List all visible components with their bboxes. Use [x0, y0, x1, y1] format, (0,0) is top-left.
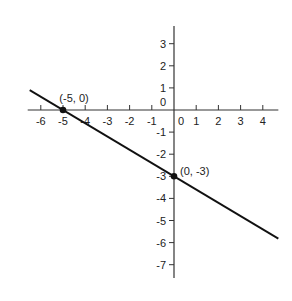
x-tick-label: 4 — [260, 115, 266, 127]
axis-ticks: -6-5-4-3-2-1012343210-1-2-3-4-5-6-7 — [36, 38, 266, 271]
y-tick-label: -3 — [156, 170, 166, 182]
y-tick-label: -2 — [156, 148, 166, 160]
coordinate-plane: -6-5-4-3-2-1012343210-1-2-3-4-5-6-7 (-5,… — [0, 0, 292, 301]
series-line — [30, 90, 279, 239]
point-label: (-5, 0) — [59, 92, 88, 104]
x-tick-label: 3 — [238, 115, 244, 127]
y-tick-label: -6 — [156, 237, 166, 249]
point-marker — [171, 173, 178, 180]
x-tick-label: -3 — [103, 115, 113, 127]
axes — [28, 26, 279, 278]
x-tick-label: 2 — [215, 115, 221, 127]
x-tick-label: -5 — [58, 115, 68, 127]
y-tick-label: -1 — [156, 126, 166, 138]
point-label: (0, -3) — [180, 165, 209, 177]
y-tick-label: -7 — [156, 259, 166, 271]
x-tick-label: -1 — [147, 115, 157, 127]
x-tick-label: 0 — [178, 115, 184, 127]
y-tick-label: 3 — [160, 38, 166, 50]
plotted-line — [30, 90, 279, 239]
y-tick-label: 0 — [160, 96, 166, 108]
x-tick-label: -2 — [125, 115, 135, 127]
y-tick-label: 2 — [160, 60, 166, 72]
labeled-points: (-5, 0)(0, -3) — [59, 92, 209, 180]
x-tick-label: -6 — [36, 115, 46, 127]
point-marker — [60, 107, 67, 114]
y-tick-label: 1 — [160, 82, 166, 94]
x-tick-label: 1 — [193, 115, 199, 127]
y-tick-label: -4 — [156, 192, 166, 204]
y-tick-label: -5 — [156, 215, 166, 227]
